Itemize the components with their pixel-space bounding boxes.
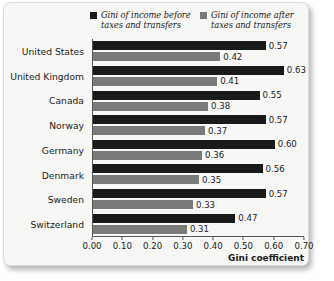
bar-row: 0.31 bbox=[93, 225, 304, 234]
x-axis-tick-5: 0.50 bbox=[234, 237, 253, 251]
x-axis-title: Gini coefficient bbox=[154, 253, 304, 263]
bar-group: 0.560.35 bbox=[93, 162, 304, 187]
bar-after bbox=[93, 175, 199, 184]
bar-value-label: 0.56 bbox=[266, 164, 285, 174]
bar-row: 0.38 bbox=[93, 102, 304, 111]
plot-area: 0.570.420.630.410.550.380.570.370.600.36… bbox=[92, 39, 304, 237]
bar-value-label: 0.57 bbox=[269, 189, 288, 199]
bar-after bbox=[93, 225, 187, 234]
y-axis-label-5: Denmark bbox=[4, 163, 88, 188]
x-axis-tick-mark bbox=[303, 237, 304, 240]
y-axis-label-7: Switzerland bbox=[4, 212, 88, 237]
legend-label-after: Gini of income after taxes and transfers bbox=[211, 10, 304, 30]
bar-group: 0.570.33 bbox=[93, 187, 304, 212]
y-axis-label-2: Canada bbox=[4, 89, 88, 114]
y-axis-label-6: Sweden bbox=[4, 188, 88, 213]
bar-row: 0.56 bbox=[93, 164, 304, 173]
y-axis-labels: United StatesUnited KingdomCanadaNorwayG… bbox=[4, 39, 88, 237]
bar-value-label: 0.36 bbox=[205, 150, 224, 160]
chart-legend: Gini of income before taxes and transfer… bbox=[90, 10, 304, 36]
bar-group: 0.630.41 bbox=[93, 64, 304, 89]
bar-value-label: 0.55 bbox=[263, 90, 282, 100]
x-axis-tick-label: 0.50 bbox=[234, 241, 253, 251]
chart-panel: Gini of income before taxes and transfer… bbox=[3, 2, 309, 266]
bar-after bbox=[93, 200, 193, 209]
bar-value-label: 0.63 bbox=[287, 65, 306, 75]
bar-row: 0.36 bbox=[93, 151, 304, 160]
legend-swatch-after-icon bbox=[200, 12, 207, 19]
bar-group: 0.600.36 bbox=[93, 138, 304, 163]
x-axis-tick-mark bbox=[91, 237, 92, 240]
x-axis-tick-6: 0.60 bbox=[264, 237, 283, 251]
y-axis-label-0: United States bbox=[4, 39, 88, 64]
x-axis-tick-label: 0.40 bbox=[204, 241, 223, 251]
bar-value-label: 0.31 bbox=[190, 224, 209, 234]
bar-row: 0.60 bbox=[93, 140, 304, 149]
bar-value-label: 0.60 bbox=[278, 139, 297, 149]
bar-before bbox=[93, 140, 275, 149]
bar-value-label: 0.42 bbox=[223, 52, 242, 62]
bar-row: 0.55 bbox=[93, 91, 304, 100]
x-axis-tick-1: 0.10 bbox=[113, 237, 132, 251]
bar-group: 0.470.31 bbox=[93, 211, 304, 236]
bar-row: 0.33 bbox=[93, 200, 304, 209]
bar-before bbox=[93, 115, 266, 124]
bar-row: 0.35 bbox=[93, 175, 304, 184]
bar-after bbox=[93, 52, 220, 61]
x-axis-tick-label: 0.10 bbox=[113, 241, 132, 251]
bar-group: 0.570.42 bbox=[93, 39, 304, 64]
chart-screenshot: Gini of income before taxes and transfer… bbox=[0, 0, 334, 281]
bar-after bbox=[93, 102, 208, 111]
bar-before bbox=[93, 164, 263, 173]
x-axis-tick-7: 0.70 bbox=[294, 237, 313, 251]
bar-after bbox=[93, 77, 217, 86]
legend-swatch-before-icon bbox=[90, 12, 97, 19]
bar-value-label: 0.33 bbox=[196, 200, 215, 210]
x-axis-tick-mark bbox=[273, 237, 274, 240]
bar-after bbox=[93, 151, 202, 160]
bar-after bbox=[93, 126, 205, 135]
bar-value-label: 0.47 bbox=[238, 213, 257, 223]
x-axis-tick-3: 0.30 bbox=[173, 237, 192, 251]
x-axis-tick-mark bbox=[152, 237, 153, 240]
bar-value-label: 0.57 bbox=[269, 115, 288, 125]
x-axis-tick-4: 0.40 bbox=[204, 237, 223, 251]
bar-row: 0.41 bbox=[93, 77, 304, 86]
y-axis-label-3: Norway bbox=[4, 113, 88, 138]
bar-group: 0.570.37 bbox=[93, 113, 304, 138]
x-axis-tick-label: 0.30 bbox=[173, 241, 192, 251]
bar-row: 0.63 bbox=[93, 66, 304, 75]
bar-before bbox=[93, 189, 266, 198]
bar-before bbox=[93, 41, 266, 50]
x-axis-tick-label: 0.20 bbox=[143, 241, 162, 251]
x-axis-tick-label: 0.70 bbox=[294, 241, 313, 251]
y-axis-label-1: United Kingdom bbox=[4, 64, 88, 89]
bar-row: 0.42 bbox=[93, 52, 304, 61]
bar-before bbox=[93, 66, 284, 75]
bar-value-label: 0.57 bbox=[269, 41, 288, 51]
legend-entry-before: Gini of income before taxes and transfer… bbox=[90, 10, 194, 36]
bar-groups: 0.570.420.630.410.550.380.570.370.600.36… bbox=[93, 39, 304, 236]
x-axis-tick-mark bbox=[122, 237, 123, 240]
bar-value-label: 0.35 bbox=[202, 175, 221, 185]
bar-row: 0.37 bbox=[93, 126, 304, 135]
plot-inner: 0.570.420.630.410.550.380.570.370.600.36… bbox=[93, 39, 304, 236]
bar-row: 0.57 bbox=[93, 41, 304, 50]
x-axis-tick-2: 0.20 bbox=[143, 237, 162, 251]
bar-value-label: 0.37 bbox=[208, 126, 227, 136]
bar-row: 0.47 bbox=[93, 214, 304, 223]
x-axis-tick-mark bbox=[182, 237, 183, 240]
legend-entry-after: Gini of income after taxes and transfers bbox=[200, 10, 304, 36]
bar-group: 0.550.38 bbox=[93, 88, 304, 113]
bar-before bbox=[93, 91, 260, 100]
x-axis-ticks: 0.000.100.200.300.400.500.600.70 bbox=[92, 237, 304, 253]
x-axis-tick-0: 0.00 bbox=[82, 237, 101, 251]
y-axis-label-4: Germany bbox=[4, 138, 88, 163]
bar-row: 0.57 bbox=[93, 115, 304, 124]
legend-label-before: Gini of income before taxes and transfer… bbox=[101, 10, 194, 30]
x-axis-tick-label: 0.60 bbox=[264, 241, 283, 251]
bar-row: 0.57 bbox=[93, 189, 304, 198]
x-axis-tick-mark bbox=[243, 237, 244, 240]
bar-value-label: 0.41 bbox=[220, 76, 239, 86]
x-axis-tick-mark bbox=[213, 237, 214, 240]
